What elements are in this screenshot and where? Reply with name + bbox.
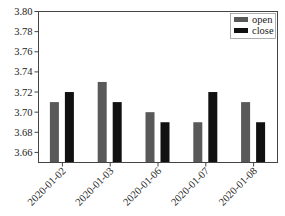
bar-open-2020-01-07 [193,122,202,162]
bars-group [50,82,265,163]
bar-close-2020-01-02 [65,92,74,162]
bar-close-2020-01-06 [161,122,170,162]
y-tick-label: 3.72 [14,87,32,98]
y-axis: 3.663.683.703.723.743.763.783.80 [14,6,38,158]
y-tick-label: 3.70 [14,107,32,118]
bar-open-2020-01-06 [146,112,155,162]
x-tick-label: 2020-01-08 [217,165,259,207]
y-tick-label: 3.76 [14,46,32,57]
x-tick-label: 2020-01-06 [121,165,163,207]
x-axis: 2020-01-022020-01-032020-01-062020-01-07… [25,163,259,208]
bar-close-2020-01-03 [113,102,122,162]
bar-chart: 3.663.683.703.723.743.763.783.80 2020-01… [0,0,285,216]
bar-open-2020-01-03 [98,82,107,163]
y-tick-label: 3.80 [14,6,32,17]
legend-label-open: open [252,14,273,25]
y-tick-label: 3.66 [14,147,32,158]
y-tick-label: 3.78 [14,26,32,37]
y-tick-label: 3.74 [14,66,33,77]
legend: openclose [231,14,276,39]
legend-label-close: close [252,25,274,36]
bar-close-2020-01-07 [208,92,217,162]
x-tick-label: 2020-01-02 [25,165,67,207]
bar-close-2020-01-08 [256,122,265,162]
legend-swatch-close [234,28,248,33]
x-tick-label: 2020-01-07 [169,165,211,207]
x-tick-label: 2020-01-03 [73,165,115,207]
bar-open-2020-01-02 [50,102,59,162]
bar-open-2020-01-08 [241,102,250,162]
legend-swatch-open [234,17,248,22]
y-tick-label: 3.68 [14,127,32,138]
